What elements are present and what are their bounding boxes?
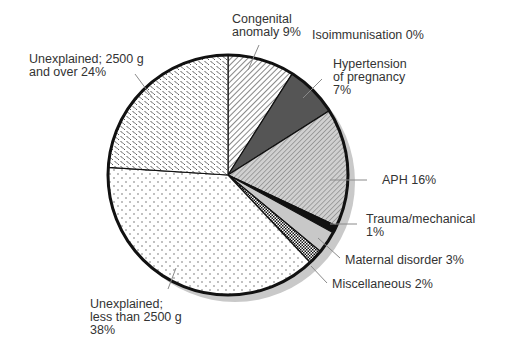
slice-label: Isoimmunisation 0% [312, 28, 424, 42]
slice-label: Congenitalanomaly 9% [232, 12, 301, 39]
slice-label: Unexplained; 2500 gand over 24% [29, 52, 144, 79]
pie-slice-unexplained-2500g-and-over [108, 55, 228, 175]
pie-chart-svg: Congenitalanomaly 9%Isoimmunisation 0%Hy… [0, 0, 508, 353]
slice-label: Maternal disorder 3% [345, 253, 464, 267]
slice-label: Hypertensionof pregnancy7% [333, 57, 407, 97]
pie-chart: Congenitalanomaly 9%Isoimmunisation 0%Hy… [0, 0, 508, 353]
slice-label: Trauma/mechanical1% [366, 212, 475, 239]
leader-line [311, 266, 327, 283]
slice-label: Unexplained;less than 2500 g38% [90, 297, 182, 337]
slice-label: APH 16% [382, 173, 436, 187]
slice-label: Miscellaneous 2% [332, 277, 433, 291]
